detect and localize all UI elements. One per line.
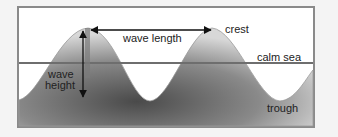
trough-label: trough	[267, 103, 298, 114]
wave-length-label: wave length	[123, 33, 182, 44]
calm-sea-label: calm sea	[257, 52, 301, 63]
crest-marker	[85, 28, 90, 78]
crest-label: crest	[225, 24, 249, 35]
wave-height-label-line2: height	[45, 80, 75, 91]
